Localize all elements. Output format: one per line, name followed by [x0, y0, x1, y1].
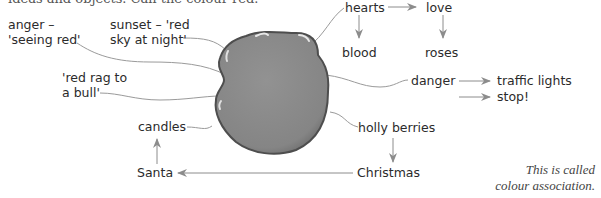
label-anger: anger – 'seeing red' [8, 17, 81, 47]
caption: This is called colour association. [495, 162, 595, 194]
caption-line2: colour association. [495, 178, 595, 194]
label-sunset: sunset – 'red sky at night' [110, 17, 190, 47]
label-hearts: hearts [345, 0, 385, 15]
label-red-rag: 'red rag to a bull' [62, 70, 127, 100]
label-candles: candles [138, 119, 186, 134]
label-anger-line1: anger – [8, 17, 81, 32]
label-danger: danger [411, 73, 455, 88]
label-traffic-lights: traffic lights [497, 73, 572, 88]
label-anger-line2: 'seeing red' [8, 32, 81, 47]
label-santa: Santa [137, 165, 173, 180]
label-stop: stop! [497, 89, 529, 104]
label-roses: roses [425, 45, 458, 60]
label-holly-berries: holly berries [358, 120, 435, 135]
label-sunset-line2: sky at night' [110, 32, 190, 47]
label-christmas: Christmas [357, 165, 420, 180]
label-sunset-line1: sunset – 'red [110, 17, 190, 32]
colour-association-diagram: ideas and objects. Call the colour red. [0, 0, 601, 198]
label-love: love [426, 0, 452, 15]
label-red-rag-line1: 'red rag to [62, 70, 127, 85]
label-blood: blood [342, 45, 377, 60]
caption-line1: This is called [495, 162, 595, 178]
label-red-rag-line2: a bull' [62, 85, 127, 100]
red-colour-blob [216, 32, 329, 154]
